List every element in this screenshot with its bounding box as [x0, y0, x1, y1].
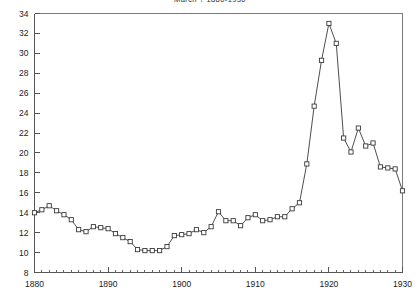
data-point-marker	[246, 216, 250, 220]
y-tick-label: 30	[19, 48, 29, 58]
data-point-marker	[106, 227, 110, 231]
data-point-marker	[143, 248, 147, 252]
data-point-marker	[32, 211, 36, 215]
data-point-marker	[180, 233, 184, 237]
line-chart-plot: 810121416182022242628303234 188018901900…	[0, 0, 420, 308]
data-point-marker	[69, 218, 73, 222]
data-point-marker	[172, 234, 176, 238]
x-tick-label: 1900	[172, 279, 191, 289]
y-tick-label: 28	[19, 68, 29, 78]
data-point-marker	[290, 207, 294, 211]
data-point-marker	[334, 41, 338, 45]
data-point-marker	[238, 224, 242, 228]
data-point-marker	[40, 208, 44, 212]
y-tick-label: 26	[19, 88, 29, 98]
y-tick-label: 18	[19, 168, 29, 178]
data-point-marker	[356, 126, 360, 130]
data-point-marker	[297, 201, 301, 205]
data-point-marker	[135, 247, 139, 251]
y-tick-label: 34	[19, 9, 29, 19]
data-point-marker	[393, 167, 397, 171]
data-point-marker	[378, 165, 382, 169]
data-point-marker	[62, 213, 66, 217]
y-tick-label: 14	[19, 208, 29, 218]
y-tick-label: 20	[19, 148, 29, 158]
data-point-marker	[371, 141, 375, 145]
data-point-marker	[268, 218, 272, 222]
y-axis: 810121416182022242628303234	[19, 9, 39, 278]
data-point-marker	[283, 215, 287, 219]
data-point-marker	[319, 58, 323, 62]
x-tick-label: 1920	[319, 279, 338, 289]
data-point-marker	[77, 228, 81, 232]
data-point-marker	[209, 225, 213, 229]
x-tick-label: 1880	[25, 279, 44, 289]
chart-container: March ? 1880-1930 8101214161820222426283…	[0, 0, 420, 308]
x-tick-label: 1910	[246, 279, 265, 289]
data-point-marker	[342, 136, 346, 140]
data-point-marker	[84, 230, 88, 234]
x-axis: 188018901900191019201930	[25, 267, 412, 289]
data-point-marker	[349, 150, 353, 154]
data-point-marker	[305, 162, 309, 166]
chart-title: March ? 1880-1930	[0, 0, 420, 2]
y-tick-label: 10	[19, 248, 29, 258]
data-markers	[32, 21, 404, 252]
data-point-marker	[400, 189, 404, 193]
data-point-marker	[91, 225, 95, 229]
data-point-marker	[253, 213, 257, 217]
data-point-marker	[47, 204, 51, 208]
plot-frame	[35, 14, 403, 273]
series-line	[35, 23, 403, 250]
y-tick-label: 22	[19, 128, 29, 138]
data-point-marker	[99, 226, 103, 230]
data-series	[35, 23, 403, 250]
data-point-marker	[231, 219, 235, 223]
data-point-marker	[158, 248, 162, 252]
data-point-marker	[364, 144, 368, 148]
data-point-marker	[128, 240, 132, 244]
data-point-marker	[327, 21, 331, 25]
y-tick-label: 32	[19, 28, 29, 38]
x-tick-label: 1930	[393, 279, 412, 289]
data-point-marker	[224, 219, 228, 223]
data-point-marker	[386, 166, 390, 170]
y-tick-label: 24	[19, 108, 29, 118]
data-point-marker	[261, 219, 265, 223]
y-tick-label: 16	[19, 188, 29, 198]
y-tick-label: 8	[24, 268, 29, 278]
data-point-marker	[121, 236, 125, 240]
data-point-marker	[202, 231, 206, 235]
data-point-marker	[165, 245, 169, 249]
data-point-marker	[187, 232, 191, 236]
data-point-marker	[275, 215, 279, 219]
data-point-marker	[113, 232, 117, 236]
data-point-marker	[150, 248, 154, 252]
x-tick-label: 1890	[99, 279, 118, 289]
y-tick-label: 12	[19, 228, 29, 238]
data-point-marker	[194, 228, 198, 232]
data-point-marker	[312, 104, 316, 108]
data-point-marker	[216, 210, 220, 214]
data-point-marker	[54, 209, 58, 213]
